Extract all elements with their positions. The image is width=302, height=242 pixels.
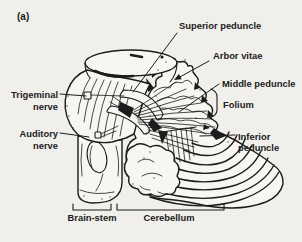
label-middle-peduncle: Middle peduncle [222,78,295,89]
figure-tag: (a) [17,11,29,22]
label-arbor-vitae: Arbor vitae [213,50,263,61]
medulla [78,136,122,203]
label-folium: Folium [223,99,254,110]
label-inferior-peduncle-line2: peduncle [238,142,279,153]
brain-stem-bracket [73,204,111,210]
label-auditory-nerve-line1: Auditory [19,128,58,139]
anatomy-diagram: (a) Superior peduncle Arbor vitae Middle… [0,0,302,242]
label-inferior-peduncle-line1: Inferior [238,131,271,142]
label-auditory-nerve-line2: nerve [33,140,58,151]
paraflocculus-lobule [124,144,179,197]
label-trigeminal-nerve-line1: Trigeminal [11,89,58,100]
label-cerebellum: Cerebellum [143,212,194,223]
label-trigeminal-nerve-line2: nerve [33,101,58,112]
label-superior-peduncle: Superior peduncle [179,20,261,31]
figure-panel: (a) Superior peduncle Arbor vitae Middle… [0,0,302,242]
label-brain-stem: Brain-stem [68,212,117,223]
